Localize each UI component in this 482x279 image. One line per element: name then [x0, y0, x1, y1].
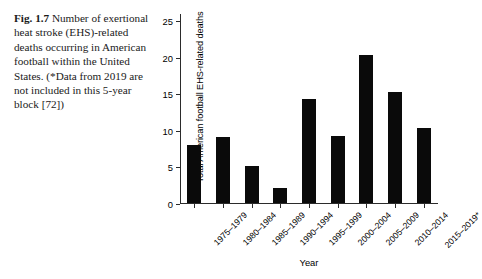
x-tick	[338, 204, 339, 208]
x-tick	[366, 204, 367, 208]
bar	[359, 55, 373, 203]
chart-plot-area: 0510152025 1975–19791980–19841985–198919…	[180, 14, 438, 204]
y-tick-label: 25	[163, 16, 173, 27]
y-tick	[176, 204, 180, 205]
bar	[216, 137, 230, 203]
figure-caption-text: Number of exertional heat stroke (EHS)-r…	[14, 12, 148, 110]
y-tick	[176, 94, 180, 95]
bar	[245, 166, 259, 203]
y-tick	[176, 167, 180, 168]
bar	[302, 99, 316, 203]
x-tick	[395, 204, 396, 208]
x-tick	[309, 204, 310, 208]
y-tick	[176, 58, 180, 59]
bar	[273, 188, 287, 203]
y-tick	[176, 21, 180, 22]
figure-caption-label: Fig. 1.7	[14, 12, 49, 24]
bar	[388, 92, 402, 203]
figure-caption: Fig. 1.7 Number of exertional heat strok…	[14, 11, 154, 112]
bar	[417, 128, 431, 203]
x-tick	[280, 204, 281, 208]
x-tick	[223, 204, 224, 208]
bar	[331, 136, 345, 203]
y-tick	[176, 131, 180, 132]
y-tick-label: 15	[163, 89, 173, 100]
y-tick-label: 20	[163, 52, 173, 63]
x-tick	[194, 204, 195, 208]
bar-chart: Total American football EHS-related deat…	[152, 8, 452, 276]
x-tick	[424, 204, 425, 208]
x-axis-title: Year	[180, 257, 438, 268]
x-tick	[252, 204, 253, 208]
bar	[187, 145, 201, 203]
y-axis-line	[180, 14, 181, 204]
y-tick-label: 0	[168, 199, 173, 210]
y-tick-label: 10	[163, 125, 173, 136]
y-tick-label: 5	[168, 162, 173, 173]
